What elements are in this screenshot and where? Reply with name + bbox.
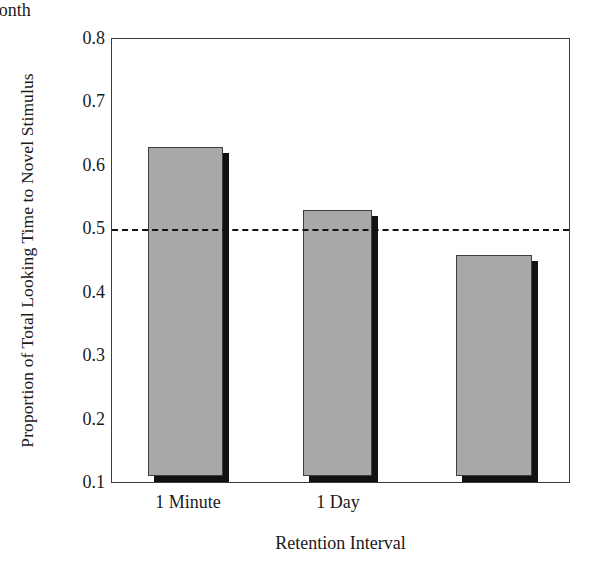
y-tick-label: 0.7 xyxy=(57,92,105,110)
y-axis-title: Proportion of Total Looking Time to Nove… xyxy=(14,38,40,483)
bar-1-day xyxy=(303,210,378,482)
y-tick-label: 0.1 xyxy=(57,473,105,491)
y-tick-label: 0.6 xyxy=(57,156,105,174)
bar-1-minute xyxy=(148,147,229,482)
plot-area xyxy=(111,38,570,483)
y-tick-label: 0.5 xyxy=(57,219,105,237)
x-tick-label: 1 Month xyxy=(0,0,31,20)
y-tick-label: 0.8 xyxy=(57,29,105,47)
bar-chart-figure: Proportion of Total Looking Time to Nove… xyxy=(0,0,603,573)
x-tick-label: 1 Day xyxy=(316,492,360,512)
bar-face xyxy=(456,255,532,477)
reference-line-0-5 xyxy=(112,229,569,231)
x-tick-label: 1 Minute xyxy=(155,492,221,512)
y-tick-label: 0.3 xyxy=(57,346,105,364)
y-tick-label: 0.4 xyxy=(57,283,105,301)
x-axis-title: Retention Interval xyxy=(111,533,570,553)
y-axis-tick-labels: 0.8 0.7 0.6 0.5 0.4 0.3 0.2 0.1 xyxy=(49,0,105,573)
bar-face xyxy=(303,210,372,476)
bar-1-month xyxy=(456,255,538,483)
y-tick-label: 0.2 xyxy=(57,410,105,428)
bar-face xyxy=(148,147,223,476)
